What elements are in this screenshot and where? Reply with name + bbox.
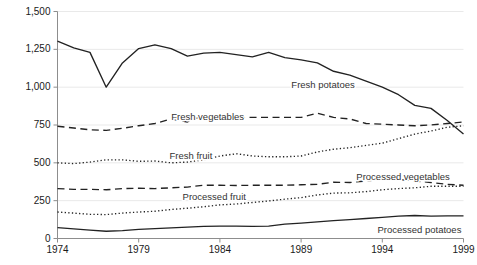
line-chart: 02505007501,0001,2501,500197419791984198… — [0, 0, 477, 265]
y-axis-tick-label: 1,250 — [25, 43, 50, 54]
y-axis-tick-label: 1,500 — [25, 6, 50, 17]
y-axis-tick-label: 0 — [45, 233, 51, 244]
x-axis-tick-label: 1974 — [46, 244, 69, 255]
chart-canvas: 02505007501,0001,2501,500197419791984198… — [0, 0, 477, 265]
series-line-fresh-fruit — [58, 126, 464, 164]
x-axis-tick-label: 1989 — [290, 244, 313, 255]
y-axis-tick-label: 750 — [34, 119, 51, 130]
y-axis-tick-label: 1,000 — [25, 81, 50, 92]
series-label-fresh-potatoes: Fresh potatoes — [291, 79, 355, 90]
series-label-processed-fruit: Processed fruit — [183, 191, 247, 202]
series-label-processed-potatoes: Processed potatoes — [377, 224, 461, 235]
series-label-fresh-fruit: Fresh fruit — [170, 150, 213, 161]
x-axis-tick-label: 1994 — [371, 244, 394, 255]
series-label-processed-vegetables: Processed vegetables — [356, 171, 450, 182]
series-label-fresh-vegetables: Fresh vegetables — [171, 111, 244, 122]
y-axis-tick-label: 250 — [34, 195, 51, 206]
x-axis-tick-label: 1979 — [128, 244, 151, 255]
y-axis-tick-label: 500 — [34, 157, 51, 168]
series-line-fresh-vegetables — [58, 113, 464, 130]
x-axis-tick-label: 1999 — [452, 244, 475, 255]
x-axis-tick-label: 1984 — [209, 244, 232, 255]
